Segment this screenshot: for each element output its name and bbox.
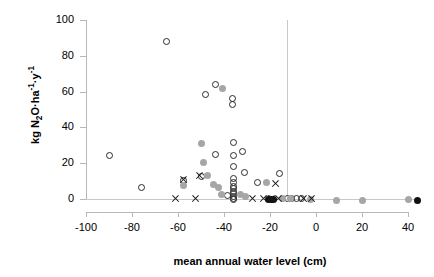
data-point-cross bbox=[195, 171, 204, 180]
data-point-black-circle bbox=[414, 197, 421, 204]
x-tick-label: -40 bbox=[199, 221, 249, 233]
data-point-cross bbox=[248, 194, 257, 203]
data-point-cross bbox=[191, 194, 200, 203]
data-point-cross bbox=[274, 194, 283, 203]
data-point-gray-circle bbox=[333, 197, 340, 204]
y-tick-label: 80 bbox=[28, 50, 74, 61]
x-tick-label: 20 bbox=[337, 221, 387, 233]
x-tick bbox=[408, 212, 409, 217]
data-point-gray-circle bbox=[359, 197, 366, 204]
x-tick bbox=[270, 212, 271, 217]
x-axis-title: mean annual water level (cm) bbox=[85, 255, 415, 267]
y-tick-label: 0 bbox=[28, 193, 74, 204]
x-tick-label: -20 bbox=[245, 221, 295, 233]
x-tick-label: -60 bbox=[153, 221, 203, 233]
y-tick bbox=[80, 199, 86, 200]
data-point-open-circle bbox=[106, 152, 113, 159]
y-tick-label: 60 bbox=[28, 86, 74, 97]
data-point-cross bbox=[171, 194, 180, 203]
data-point-open-circle bbox=[202, 91, 209, 98]
x-tick-label: 40 bbox=[383, 221, 433, 233]
x-tick bbox=[132, 212, 133, 217]
x-tick-label: -100 bbox=[61, 221, 111, 233]
x-tick bbox=[316, 212, 317, 217]
x-tick bbox=[178, 212, 179, 217]
data-point-gray-circle bbox=[198, 140, 205, 147]
data-point-cross bbox=[179, 175, 188, 184]
x-tick-label: 0 bbox=[291, 221, 341, 233]
y-tick-label: 40 bbox=[28, 121, 74, 132]
x-tick-label: -80 bbox=[107, 221, 157, 233]
data-point-gray-circle bbox=[405, 196, 412, 203]
data-point-cross bbox=[307, 194, 316, 203]
data-point-open-circle bbox=[224, 192, 231, 199]
plot-area bbox=[86, 20, 416, 199]
scatter-chart-figure: kg N2O·ha-1·y-1 020406080100 -100-80-60-… bbox=[0, 0, 434, 277]
x-tick bbox=[224, 212, 225, 217]
x-tick bbox=[362, 212, 363, 217]
data-point-open-circle bbox=[239, 148, 246, 155]
y-tick-label: 100 bbox=[28, 14, 74, 25]
y-tick-label: 20 bbox=[28, 157, 74, 168]
data-point-open-circle bbox=[254, 179, 261, 186]
data-point-open-circle bbox=[276, 170, 283, 177]
data-point-cross bbox=[271, 179, 280, 188]
x-axis-line bbox=[86, 212, 408, 213]
x-tick bbox=[86, 212, 87, 217]
data-point-open-circle bbox=[229, 101, 236, 108]
data-point-open-circle bbox=[230, 163, 237, 170]
data-point-open-circle bbox=[230, 152, 237, 159]
data-point-open-circle bbox=[163, 38, 170, 45]
data-point-gray-circle bbox=[218, 191, 225, 198]
data-point-open-circle bbox=[230, 139, 237, 146]
y-axis-title: kg N2O·ha-1·y-1 bbox=[22, 5, 42, 205]
